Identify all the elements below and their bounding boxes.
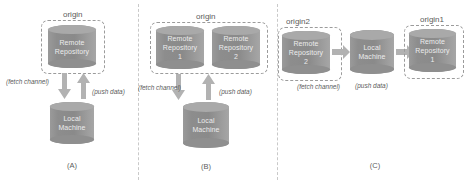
panel-caption-b: (B) — [186, 162, 226, 171]
push-arrow-b — [202, 74, 215, 100]
cylinder-label-line3: 1 — [431, 55, 435, 64]
fetch-arrow-a — [58, 73, 71, 99]
cylinder-label: Remote Repository 2 — [282, 31, 330, 74]
remote-repository-2-cylinder-c: Remote Repository 2 — [282, 31, 330, 74]
cylinder-label-line2: Repository — [163, 43, 197, 52]
origin-group-label-b: origin — [196, 12, 216, 21]
cylinder-label-line2: Machine — [58, 123, 85, 132]
cylinder-label: Local Machine — [50, 102, 94, 144]
cylinder-label-line2: Repository — [289, 48, 323, 57]
cylinder-label-line3: 2 — [304, 57, 308, 66]
local-machine-cylinder-c: Local Machine — [350, 30, 394, 74]
cylinder-label-line2: Machine — [192, 125, 219, 134]
cylinder-label-line1: Local — [363, 43, 380, 52]
fetch-arrow-c — [332, 45, 350, 59]
figure-canvas: origin Remote Repository (fetch channel)… — [0, 0, 466, 186]
cylinder-label-line2: Machine — [358, 52, 385, 61]
cylinder-label-line1: Remote — [59, 38, 84, 47]
push-data-label-c: (push data) — [355, 82, 388, 89]
cylinder-label: Local Machine — [350, 30, 394, 74]
cylinder-label-line1: Remote — [293, 39, 318, 48]
remote-repository-1-cylinder-c: Remote Repository 1 — [409, 29, 456, 72]
cylinder-label-line2: Repository — [415, 46, 449, 55]
origin1-group-label-c: origin1 — [420, 15, 444, 24]
fetch-channel-label-c: (fetch channel) — [297, 83, 340, 90]
cylinder-label-line1: Remote — [420, 37, 445, 46]
cylinder-label: Remote Repository 2 — [212, 26, 260, 69]
cylinder-label-line1: Remote — [223, 34, 248, 43]
push-data-label-b: (push data) — [219, 88, 252, 95]
local-machine-cylinder-b: Local Machine — [183, 102, 229, 148]
origin-group-label-a: origin — [63, 10, 83, 19]
cylinder-label-line1: Local — [63, 114, 80, 123]
cylinder-label-line1: Remote — [167, 34, 192, 43]
cylinder-label: Remote Repository 1 — [409, 29, 456, 72]
panel-divider-1 — [138, 4, 139, 180]
cylinder-label-line3: 1 — [178, 52, 182, 61]
cylinder-label-line2: Repository — [219, 43, 253, 52]
local-machine-cylinder-a: Local Machine — [50, 102, 94, 144]
cylinder-label-line1: Local — [197, 116, 214, 125]
origin2-group-label-c: origin2 — [286, 17, 310, 26]
remote-repository-1-cylinder-b: Remote Repository 1 — [156, 26, 204, 69]
cylinder-label: Local Machine — [183, 102, 229, 148]
push-data-label-a: (push data) — [92, 88, 125, 95]
cylinder-label: Remote Repository 1 — [156, 26, 204, 69]
fetch-channel-label-b: (fetch channel) — [138, 84, 181, 91]
remote-repository-cylinder-a: Remote Repository — [48, 25, 96, 68]
push-arrow-a — [77, 73, 90, 99]
cylinder-label-line3: 2 — [234, 52, 238, 61]
remote-repository-2-cylinder-b: Remote Repository 2 — [212, 26, 260, 69]
fetch-channel-label-a: (fetch channel) — [6, 78, 49, 85]
cylinder-label-line2: Repository — [55, 47, 89, 56]
panel-caption-c: (C) — [355, 161, 395, 170]
panel-caption-a: (A) — [52, 161, 92, 170]
cylinder-label: Remote Repository — [48, 25, 96, 68]
